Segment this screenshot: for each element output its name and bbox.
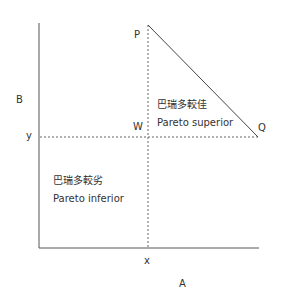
point-w-label: W bbox=[133, 122, 143, 132]
pareto-inferior-en-label: Pareto inferior bbox=[53, 194, 124, 204]
y-tick-label: y bbox=[26, 131, 32, 141]
pareto-inferior-zh-label: 巴瑞多較劣 bbox=[53, 176, 103, 186]
pareto-diagram bbox=[0, 0, 282, 298]
pareto-superior-en-label: Pareto superior bbox=[157, 118, 233, 128]
y-axis-label: B bbox=[16, 95, 23, 105]
pareto-superior-zh-label: 巴瑞多較佳 bbox=[157, 100, 207, 110]
point-p-label: P bbox=[134, 30, 140, 40]
point-q-label: Q bbox=[258, 123, 266, 133]
x-tick-label: x bbox=[144, 256, 150, 266]
x-axis-label: A bbox=[179, 279, 186, 289]
